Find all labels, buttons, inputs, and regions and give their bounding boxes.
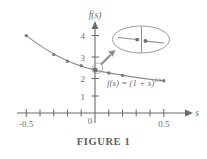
data-point — [66, 60, 69, 63]
data-point — [107, 71, 110, 74]
y-tick-label-2: 2 — [81, 74, 86, 84]
data-point — [25, 34, 28, 37]
y-axis-arrowhead — [92, 21, 99, 29]
y-tick-label-4: 4 — [81, 31, 86, 41]
formula-exponent: 1/s — [154, 76, 162, 83]
x-tick-label--0.5: -0.5 — [19, 119, 34, 129]
formula-annotation: f(s) = (1 + s)1/s — [107, 76, 162, 88]
x-axis-arrowhead — [185, 109, 193, 116]
data-point — [121, 74, 124, 77]
figure-caption: FIGURE 1 — [0, 136, 207, 147]
inset-right-branch — [146, 41, 164, 43]
x-tick-label-0.5: 0.5 — [158, 119, 170, 129]
leader-arrow-group — [101, 50, 116, 65]
magnifier-inset-group — [113, 26, 170, 53]
x-axis-label: s — [195, 108, 199, 118]
inset-left-branch — [118, 38, 137, 40]
y-tick-label-1: 1 — [81, 92, 86, 102]
y-tick-label-3: 3 — [81, 53, 86, 63]
y-axis-label: f(s) — [89, 10, 102, 21]
inset-left-point — [135, 38, 139, 42]
leader-arrow-shaft — [101, 55, 111, 65]
formula-base: f(s) = (1 + s)1/s — [107, 76, 162, 88]
inset-right-point — [144, 39, 148, 43]
origin-label: 0 — [88, 116, 93, 126]
figure-container: 4 3 2 1 0 -0.5 0.5 f(s) s — [0, 0, 207, 159]
formula-base-text: f(s) = (1 + s) — [107, 78, 154, 88]
data-point — [52, 53, 55, 56]
data-point — [80, 64, 83, 67]
data-point — [162, 79, 165, 82]
